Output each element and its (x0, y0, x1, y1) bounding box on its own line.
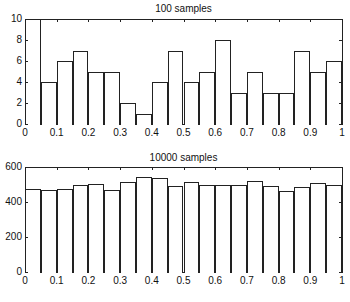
x-tick-label: 0.3 (108, 275, 132, 286)
x-tick-mark (247, 167, 248, 170)
x-tick-label: 0.4 (140, 275, 164, 286)
x-tick-mark (279, 19, 280, 22)
histogram-bar (104, 72, 120, 126)
histogram-bar (310, 72, 326, 126)
histogram-bar (120, 182, 136, 273)
histogram-bar (231, 185, 247, 273)
x-tick-mark (215, 269, 216, 272)
x-tick-label: 0.9 (298, 127, 322, 138)
x-tick-mark (342, 121, 343, 124)
x-tick-mark (152, 167, 153, 170)
y-tick-mark (339, 61, 342, 62)
histogram-bar (326, 61, 342, 125)
histogram-bar (120, 103, 136, 125)
y-tick-mark (25, 82, 28, 83)
histogram-bar (88, 184, 104, 273)
histogram-bar (168, 186, 184, 273)
y-tick-mark (25, 61, 28, 62)
x-tick-mark (57, 269, 58, 272)
x-tick-mark (184, 167, 185, 170)
x-tick-label: 0.2 (76, 275, 100, 286)
histogram-bar (199, 185, 215, 273)
x-tick-mark (152, 269, 153, 272)
histogram-bar (215, 185, 231, 274)
x-tick-label: 0.6 (203, 127, 227, 138)
x-tick-mark (57, 121, 58, 124)
y-tick-mark (339, 272, 342, 273)
x-tick-label: 0.7 (235, 275, 259, 286)
histogram-bar (168, 51, 184, 126)
plot-title: 100 samples (25, 3, 342, 14)
x-tick-mark (88, 167, 89, 170)
histogram-bar (247, 72, 263, 126)
y-tick-label: 8 (2, 34, 22, 45)
y-tick-mark (25, 167, 28, 168)
histogram-bar (310, 183, 326, 273)
y-tick-mark (25, 124, 28, 125)
x-tick-label: 0.1 (45, 127, 69, 138)
histogram-bar (199, 72, 215, 126)
x-tick-mark (120, 167, 121, 170)
histogram-bar (326, 185, 342, 273)
y-tick-label: 6 (2, 55, 22, 66)
x-tick-mark (310, 121, 311, 124)
y-tick-label: 0 (2, 118, 22, 129)
histogram-bar (279, 191, 295, 273)
y-tick-label: 600 (2, 161, 22, 172)
x-tick-mark (279, 121, 280, 124)
x-tick-mark (184, 269, 185, 272)
histogram-bar (41, 190, 57, 273)
y-tick-mark (339, 82, 342, 83)
x-tick-mark (279, 269, 280, 272)
histogram-bar (263, 93, 279, 126)
x-tick-label: 0.4 (140, 127, 164, 138)
x-tick-mark (310, 19, 311, 22)
histogram-bar (152, 178, 168, 274)
x-tick-mark (310, 167, 311, 170)
x-tick-mark (152, 19, 153, 22)
histogram-bar (73, 185, 89, 274)
x-tick-label: 0.9 (298, 275, 322, 286)
plot-title: 10000 samples (25, 152, 342, 163)
x-tick-mark (310, 269, 311, 272)
x-tick-label: 0.8 (267, 275, 291, 286)
x-tick-label: 0.1 (45, 275, 69, 286)
y-tick-label: 400 (2, 196, 22, 207)
y-tick-mark (25, 40, 28, 41)
y-tick-mark (25, 237, 28, 238)
histogram-bar (279, 93, 295, 126)
histogram-bar (73, 51, 89, 126)
histogram-bar (152, 82, 168, 125)
x-tick-mark (88, 121, 89, 124)
histogram-bar (184, 82, 200, 125)
histogram-bar (294, 187, 310, 273)
x-tick-mark (88, 269, 89, 272)
y-tick-mark (339, 103, 342, 104)
histogram-bar (136, 114, 152, 126)
x-tick-mark (247, 121, 248, 124)
x-tick-mark (152, 121, 153, 124)
y-tick-mark (25, 272, 28, 273)
x-tick-mark (120, 19, 121, 22)
x-tick-label: 0.2 (76, 127, 100, 138)
x-tick-label: 0.3 (108, 127, 132, 138)
y-tick-label: 4 (2, 76, 22, 87)
x-tick-mark (120, 269, 121, 272)
x-tick-label: 0.8 (267, 127, 291, 138)
histogram-bar (215, 40, 231, 125)
histogram-bar (88, 72, 104, 126)
histogram-bar (294, 51, 310, 126)
x-tick-mark (342, 167, 343, 170)
x-tick-mark (120, 121, 121, 124)
x-tick-mark (184, 121, 185, 124)
histogram-bar (41, 82, 57, 125)
y-tick-mark (25, 103, 28, 104)
y-tick-mark (25, 202, 28, 203)
x-tick-mark (184, 19, 185, 22)
y-tick-label: 0 (2, 266, 22, 277)
y-tick-mark (339, 202, 342, 203)
x-tick-label: 0.5 (172, 127, 196, 138)
histogram-bar (25, 19, 41, 125)
x-tick-mark (88, 19, 89, 22)
x-tick-mark (215, 121, 216, 124)
